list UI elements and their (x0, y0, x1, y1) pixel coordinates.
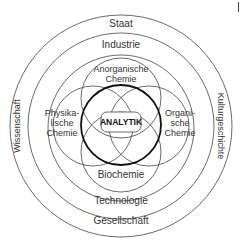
label-technologie: Technologie (86, 196, 156, 206)
label-analytik: ANALYTIK (96, 117, 146, 127)
label-physikalische-chemie: Physika- lische Chemie (40, 108, 84, 138)
label-industrie: Industrie (86, 40, 156, 50)
label-organische-chemie: Organi- sche Chemie (160, 108, 200, 138)
label-anorganische-chemie: Anorganische Chemie (86, 64, 156, 84)
page-edge-marker (238, 2, 239, 12)
label-biochemie: Biochemie (86, 170, 156, 180)
label-kulturgeschichte: Kulturgeschichte (216, 86, 226, 166)
label-gesellschaft: Gesellschaft (81, 216, 161, 226)
label-wissenschaft: Wissenschaft (12, 96, 22, 156)
label-staat: Staat (96, 19, 146, 29)
